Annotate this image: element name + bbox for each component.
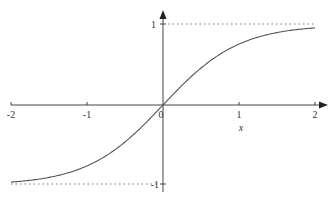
x-axis-arrow-icon — [319, 102, 328, 109]
y-axis-arrow-icon — [160, 10, 167, 19]
tanh-chart: -2 -1 0 1 2 1 -1 x — [0, 0, 333, 205]
x-tick-label: -2 — [7, 109, 15, 120]
y-tick-label: 1 — [151, 19, 156, 30]
x-tick-label: -1 — [83, 109, 91, 120]
x-tick-label: 0 — [159, 109, 164, 120]
x-axis-label: x — [238, 122, 244, 133]
x-tick-label: 1 — [237, 109, 242, 120]
x-tick-label: 2 — [313, 109, 318, 120]
y-tick-label: -1 — [151, 179, 159, 190]
